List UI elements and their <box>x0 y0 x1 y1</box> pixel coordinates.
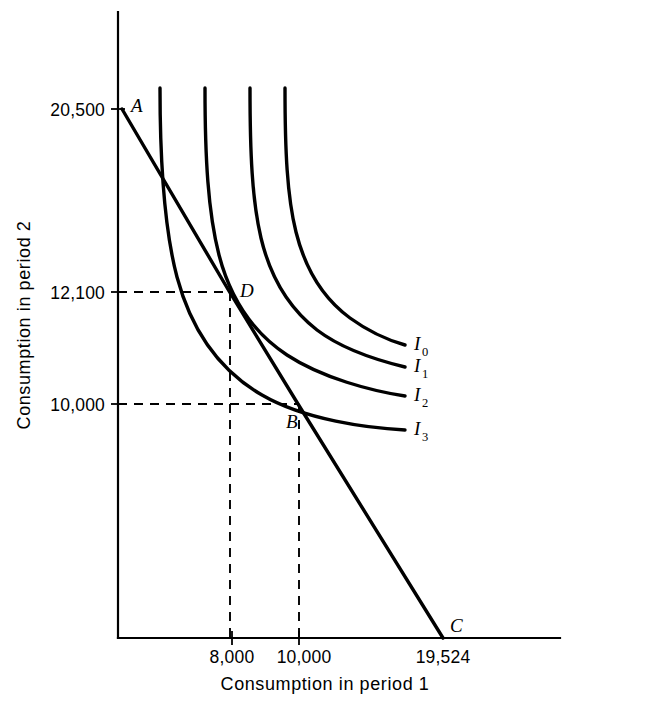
curve-labels-group: I 0 I 1 I 2 I 3 <box>413 333 428 444</box>
x-tick-label-19524: 19,524 <box>416 647 471 667</box>
budget-line-ac <box>122 109 443 638</box>
curve-label-i2: I 2 <box>413 384 428 410</box>
x-tick-labels-group: 8,000 10,000 19,524 <box>210 647 471 667</box>
chart-svg: A D B C I 0 I 1 I 2 I 3 <box>0 0 646 709</box>
y-axis-title: Consumption in period 2 <box>14 221 34 430</box>
curve-label-i3-main: I <box>413 418 422 439</box>
y-tick-label-10000: 10,000 <box>50 395 105 415</box>
x-axis-title: Consumption in period 1 <box>221 674 430 694</box>
y-tick-label-12100: 12,100 <box>50 283 105 303</box>
y-tick-label-20500: 20,500 <box>50 100 105 120</box>
point-labels-group: A D B C <box>129 95 463 636</box>
curve-label-i3-sub: 3 <box>422 430 428 444</box>
curve-label-i2-main: I <box>413 384 422 405</box>
point-label-a: A <box>129 95 143 116</box>
point-label-c: C <box>450 615 463 636</box>
curve-label-i0-main: I <box>413 333 422 354</box>
point-label-b: B <box>286 411 298 432</box>
curve-label-i0-sub: 0 <box>422 345 428 359</box>
x-tick-label-8000: 8,000 <box>210 647 255 667</box>
budget-line-group <box>122 109 443 638</box>
y-tick-labels-group: 20,500 12,100 10,000 <box>50 100 105 415</box>
x-tick-label-10000: 10,000 <box>277 647 332 667</box>
curve-label-i2-sub: 2 <box>422 396 428 410</box>
axes-group <box>118 12 560 638</box>
consumption-chart-figure: A D B C I 0 I 1 I 2 I 3 <box>0 0 646 709</box>
curve-label-i3: I 3 <box>413 418 428 444</box>
indifference-curve-i1 <box>250 88 405 367</box>
indifference-curve-i0 <box>285 88 405 345</box>
indifference-curve-i2 <box>205 88 405 396</box>
curve-label-i1-main: I <box>413 355 422 376</box>
point-label-d: D <box>239 280 254 301</box>
curve-label-i1-sub: 1 <box>422 367 428 381</box>
